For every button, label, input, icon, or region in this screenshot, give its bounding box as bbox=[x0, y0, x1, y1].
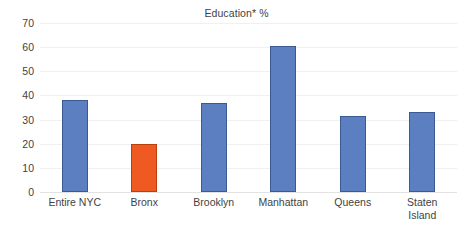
bar-staten-island bbox=[409, 112, 435, 192]
y-tick-label-40: 40 bbox=[0, 90, 34, 101]
y-axis: 010203040506070 bbox=[0, 23, 34, 192]
x-tick-label-bronx: Bronx bbox=[110, 196, 180, 209]
x-tick-label-queens: Queens bbox=[318, 196, 388, 209]
x-tick-label-manhattan: Manhattan bbox=[249, 196, 319, 209]
gridline-0 bbox=[40, 192, 457, 193]
y-tick-label-30: 30 bbox=[0, 114, 34, 125]
y-tick-label-70: 70 bbox=[0, 18, 34, 29]
bar-manhattan bbox=[270, 46, 296, 192]
bar-bronx bbox=[131, 144, 157, 192]
gridline-20 bbox=[40, 144, 457, 145]
x-tick-label-entire-nyc: Entire NYC bbox=[40, 196, 110, 209]
plot-area bbox=[40, 23, 457, 192]
y-tick-label-0: 0 bbox=[0, 187, 34, 198]
y-tick-label-60: 60 bbox=[0, 42, 34, 53]
bar-entire-nyc bbox=[62, 100, 88, 192]
bar-chart: Education* % 010203040506070 Entire NYCB… bbox=[0, 0, 473, 236]
x-tick-label-brooklyn: Brooklyn bbox=[179, 196, 249, 209]
gridline-30 bbox=[40, 120, 457, 121]
y-tick-label-20: 20 bbox=[0, 138, 34, 149]
y-tick-label-10: 10 bbox=[0, 162, 34, 173]
gridline-40 bbox=[40, 95, 457, 96]
bar-queens bbox=[340, 116, 366, 192]
gridline-50 bbox=[40, 71, 457, 72]
gridline-10 bbox=[40, 168, 457, 169]
x-axis: Entire NYCBronxBrooklynManhattanQueensSt… bbox=[40, 196, 457, 236]
gridline-70 bbox=[40, 23, 457, 24]
gridline-60 bbox=[40, 47, 457, 48]
x-tick-label-staten-island: Staten Island bbox=[388, 196, 458, 222]
y-tick-label-50: 50 bbox=[0, 66, 34, 77]
bar-brooklyn bbox=[201, 103, 227, 192]
chart-title: Education* % bbox=[0, 7, 473, 20]
